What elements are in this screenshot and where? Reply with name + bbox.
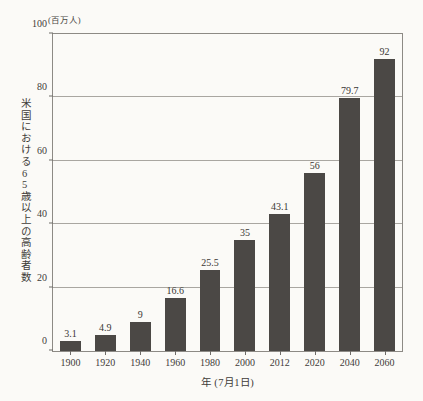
- x-axis-tick-mark: [70, 351, 71, 355]
- x-axis-tick-mark: [105, 351, 106, 355]
- x-axis-tick-mark: [315, 351, 316, 355]
- plot-area: 0204060801003.119004.919209194016.619602…: [52, 33, 403, 352]
- x-axis-tick-mark: [245, 351, 246, 355]
- x-axis-tick-label: 1980: [200, 357, 220, 368]
- x-axis-tick-mark: [140, 351, 141, 355]
- bar-group[interactable]: 3.1: [53, 34, 88, 351]
- x-axis-tick-label: 2040: [340, 357, 360, 368]
- bar-value-label: 3.1: [53, 328, 88, 339]
- bar-group[interactable]: 79.7: [332, 34, 367, 351]
- bar[interactable]: [269, 214, 290, 351]
- x-axis-tick-mark: [280, 351, 281, 355]
- bar[interactable]: [165, 298, 186, 351]
- bar-value-label: 56: [297, 160, 332, 171]
- bar[interactable]: [374, 59, 395, 351]
- bar-group[interactable]: 43.1: [262, 34, 297, 351]
- bar-value-label: 43.1: [262, 201, 297, 212]
- x-axis-tick-label: 1960: [165, 357, 185, 368]
- bar[interactable]: [130, 322, 151, 351]
- y-axis-title: 米国における65歳以上の高齢者数: [12, 78, 30, 303]
- bar-group[interactable]: 25.5: [193, 34, 228, 351]
- bar-value-label: 25.5: [193, 257, 228, 268]
- x-axis-tick-label: 2012: [270, 357, 290, 368]
- plot-inner: 0204060801003.119004.919209194016.619602…: [53, 34, 402, 351]
- bar[interactable]: [304, 173, 325, 351]
- chart-page: (百万人) 米国における65歳以上の高齢者数 0204060801003.119…: [0, 0, 423, 401]
- bar-group[interactable]: 56: [297, 34, 332, 351]
- x-axis-tick-label: 1900: [60, 357, 80, 368]
- y-axis-tick-label: 20: [37, 271, 53, 282]
- bar-value-label: 79.7: [332, 85, 367, 96]
- bar[interactable]: [339, 98, 360, 351]
- bar[interactable]: [95, 335, 116, 351]
- x-axis-title: 年 (7月1日): [52, 374, 403, 389]
- bar-value-label: 35: [228, 227, 263, 238]
- bar[interactable]: [200, 270, 221, 351]
- bar[interactable]: [60, 341, 81, 351]
- x-axis-tick-label: 2000: [235, 357, 255, 368]
- x-axis-tick-mark: [210, 351, 211, 355]
- bar-group[interactable]: 9: [123, 34, 158, 351]
- bar[interactable]: [234, 240, 255, 351]
- bar-group[interactable]: 16.6: [158, 34, 193, 351]
- y-axis-tick-label: 100: [32, 18, 53, 29]
- bar-value-label: 92: [367, 46, 402, 57]
- y-axis-tick-label: 40: [37, 208, 53, 219]
- y-axis-tick-label: 60: [37, 144, 53, 155]
- x-axis-tick-label: 2060: [375, 357, 395, 368]
- x-axis-tick-label: 1940: [130, 357, 150, 368]
- x-axis-tick-mark: [175, 351, 176, 355]
- x-axis-tick-mark: [350, 351, 351, 355]
- x-axis-tick-label: 1920: [95, 357, 115, 368]
- bar-group[interactable]: 4.9: [88, 34, 123, 351]
- bar-group[interactable]: 92: [367, 34, 402, 351]
- bar-group[interactable]: 35: [228, 34, 263, 351]
- bar-value-label: 9: [123, 309, 158, 320]
- bar-value-label: 16.6: [158, 285, 193, 296]
- bar-value-label: 4.9: [88, 322, 123, 333]
- y-axis-tick-label: 80: [37, 81, 53, 92]
- x-axis-tick-mark: [385, 351, 386, 355]
- y-axis-tick-label: 0: [42, 335, 53, 346]
- x-axis-tick-label: 2020: [305, 357, 325, 368]
